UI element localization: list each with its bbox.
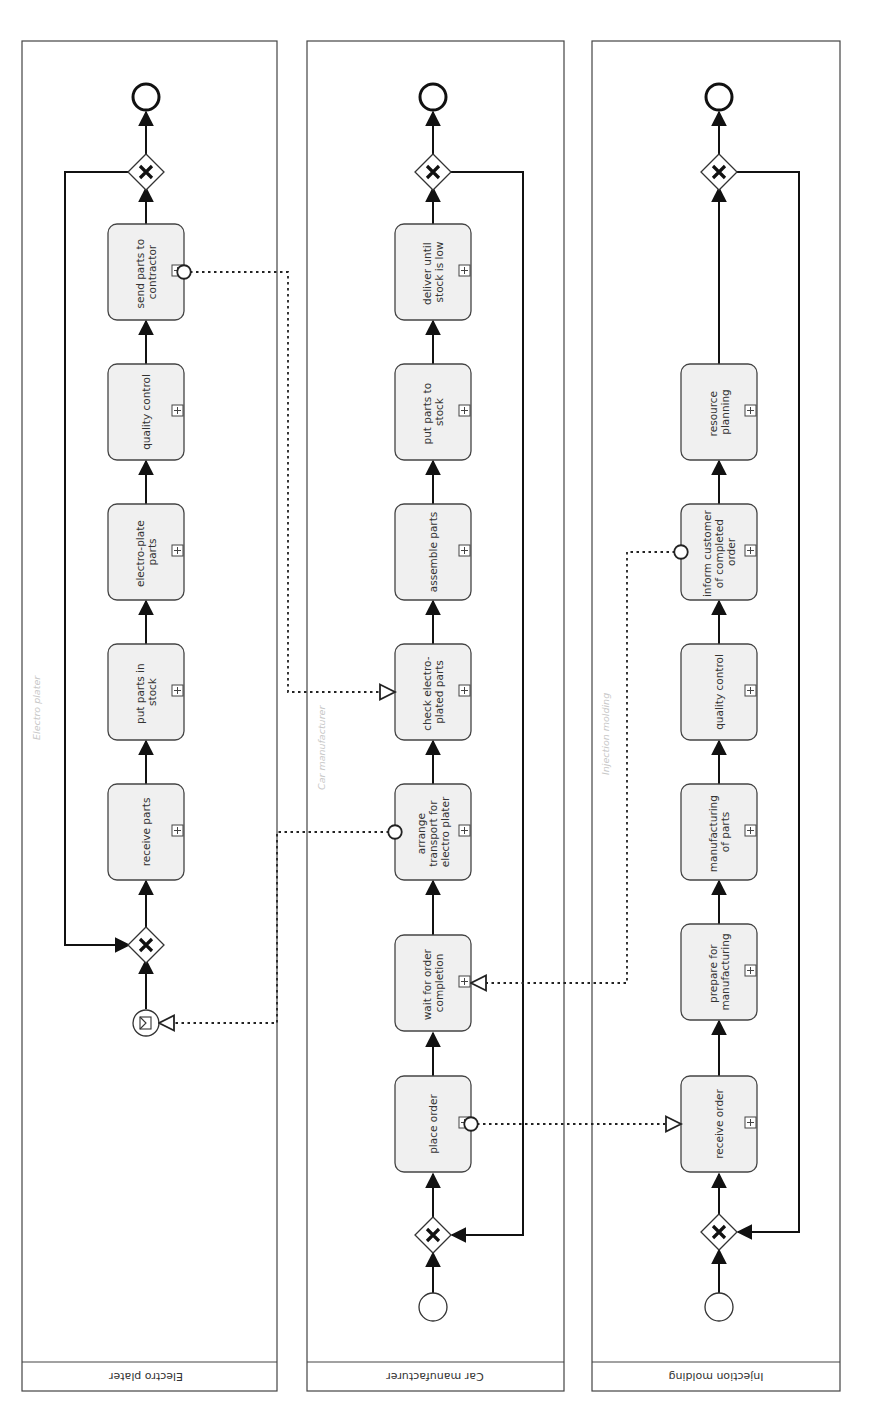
- subprocess-marker-icon: [459, 976, 470, 987]
- electro-plater-flow: send parts to contractor quality control…: [65, 84, 184, 1036]
- task-label: prepare for manufacturing: [707, 933, 731, 1010]
- task-manufacturing-of-parts[interactable]: manufacturing of parts: [681, 784, 757, 880]
- exclusive-gateway-merge[interactable]: [701, 1214, 737, 1250]
- exclusive-gateway-merge[interactable]: [128, 927, 164, 963]
- lane-watermark: Car manufacturer: [316, 705, 327, 790]
- end-event[interactable]: [420, 84, 446, 110]
- subprocess-marker-icon: [172, 685, 183, 696]
- subprocess-marker-icon: [459, 545, 470, 556]
- subprocess-marker-icon: [172, 545, 183, 556]
- subprocess-marker-icon: [745, 545, 756, 556]
- task-place-order[interactable]: place order: [395, 1076, 471, 1172]
- subprocess-marker-icon: [172, 825, 183, 836]
- message-flow-send-parts-to-check[interactable]: [184, 272, 395, 692]
- exclusive-gateway-split[interactable]: [701, 154, 737, 190]
- subprocess-marker-icon: [172, 405, 183, 416]
- task-electro-plate-parts[interactable]: electro-plate parts: [108, 504, 184, 600]
- task-quality-control[interactable]: quality control: [108, 364, 184, 460]
- exclusive-gateway-merge[interactable]: [415, 1217, 451, 1253]
- message-start-event[interactable]: [133, 1010, 159, 1036]
- task-resource-planning[interactable]: resource planning: [681, 364, 757, 460]
- car-manufacturer-flow: deliver until stock is low put parts to …: [395, 84, 523, 1321]
- start-event[interactable]: [705, 1293, 733, 1321]
- task-put-parts-in-stock[interactable]: put parts in stock: [108, 644, 184, 740]
- pool-label: Injection molding: [668, 1370, 763, 1383]
- task-label: deliver until stock is low: [421, 239, 445, 305]
- message-flow-inform-customer-to-wait[interactable]: [471, 552, 681, 983]
- task-label: quality control: [713, 654, 725, 730]
- task-label: quality control: [140, 374, 152, 450]
- task-label: receive order: [713, 1088, 725, 1158]
- task-receive-parts[interactable]: receive parts: [108, 784, 184, 880]
- task-prepare-for-manufacturing[interactable]: prepare for manufacturing: [681, 924, 757, 1020]
- injection-molding-flow: resource planning inform customer of com…: [681, 84, 799, 1321]
- lane-watermark: Electro plater: [31, 675, 42, 740]
- task-inform-customer-of-completed-order[interactable]: inform customer of completed order: [681, 504, 757, 600]
- subprocess-marker-icon: [745, 965, 756, 976]
- pool-label: Car manufacturer: [386, 1370, 484, 1383]
- task-label: send parts to contractor: [134, 236, 158, 309]
- task-quality-control[interactable]: quality control: [681, 644, 757, 740]
- task-check-electro-plated-parts[interactable]: check electro- plated parts: [395, 644, 471, 740]
- task-label: check electro- plated parts: [421, 653, 445, 731]
- task-assemble-parts[interactable]: assemble parts: [395, 504, 471, 600]
- lane-watermark: Injection molding: [600, 693, 611, 775]
- start-event[interactable]: [419, 1293, 447, 1321]
- subprocess-marker-icon: [459, 685, 470, 696]
- subprocess-marker-icon: [745, 825, 756, 836]
- end-event[interactable]: [706, 84, 732, 110]
- task-receive-order[interactable]: receive order: [681, 1076, 757, 1172]
- pool-label: Electro plater: [109, 1370, 184, 1383]
- task-label: wait for order completion: [421, 946, 445, 1021]
- task-arrange-transport-for-electro-plater[interactable]: arrange transport for electro plater: [395, 784, 471, 880]
- task-put-parts-to-stock[interactable]: put parts to stock: [395, 364, 471, 460]
- subprocess-marker-icon: [172, 265, 183, 276]
- task-deliver-until-stock-is-low[interactable]: deliver until stock is low: [395, 224, 471, 320]
- task-label: resource planning: [707, 388, 731, 437]
- subprocess-marker-icon: [459, 1117, 470, 1128]
- end-event[interactable]: [133, 84, 159, 110]
- subprocess-marker-icon: [745, 1117, 756, 1128]
- subprocess-marker-icon: [459, 405, 470, 416]
- subprocess-marker-icon: [459, 825, 470, 836]
- task-label: assemble parts: [427, 512, 439, 592]
- subprocess-marker-icon: [745, 685, 756, 696]
- subprocess-marker-icon: [459, 265, 470, 276]
- exclusive-gateway-split[interactable]: [415, 154, 451, 190]
- task-label: receive parts: [140, 798, 152, 867]
- envelope-icon: [140, 1017, 151, 1029]
- task-label: place order: [427, 1094, 439, 1154]
- subprocess-marker-icon: [745, 405, 756, 416]
- task-send-parts-to-contractor[interactable]: send parts to contractor: [108, 224, 184, 320]
- task-wait-for-order-completion[interactable]: wait for order completion: [395, 935, 471, 1031]
- exclusive-gateway-split[interactable]: [128, 154, 164, 190]
